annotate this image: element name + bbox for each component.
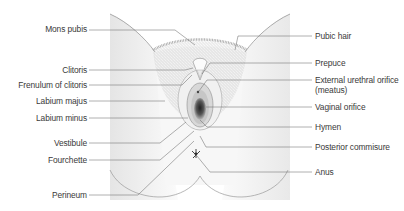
label-pubic-hair: Pubic hair bbox=[315, 32, 351, 41]
label-external-urethral-orifice-line2: (meatus) bbox=[315, 86, 347, 95]
urethral-orifice-shape bbox=[197, 91, 199, 93]
anatomy-diagram: Mons pubis Clitoris Frenulum of clitoris… bbox=[0, 0, 404, 211]
label-frenulum-of-clitoris: Frenulum of clitoris bbox=[18, 81, 87, 90]
label-labium-majus: Labium majus bbox=[36, 97, 87, 106]
label-labium-minus: Labium minus bbox=[36, 114, 87, 123]
label-vestibule: Vestibule bbox=[54, 139, 87, 148]
label-anus: Anus bbox=[315, 168, 334, 177]
label-perineum: Perineum bbox=[52, 191, 87, 200]
label-clitoris: Clitoris bbox=[62, 66, 87, 75]
label-vaginal-orifice: Vaginal orifice bbox=[315, 103, 365, 112]
vaginal-orifice-shape bbox=[194, 98, 206, 120]
label-hymen: Hymen bbox=[315, 123, 341, 132]
label-posterior-commisure: Posterior commisure bbox=[315, 143, 390, 152]
label-fourchette: Fourchette bbox=[48, 156, 87, 165]
label-mons-pubis: Mons pubis bbox=[45, 25, 87, 34]
label-external-urethral-orifice: External urethral orifice bbox=[315, 76, 399, 85]
label-prepuce: Prepuce bbox=[315, 59, 346, 68]
